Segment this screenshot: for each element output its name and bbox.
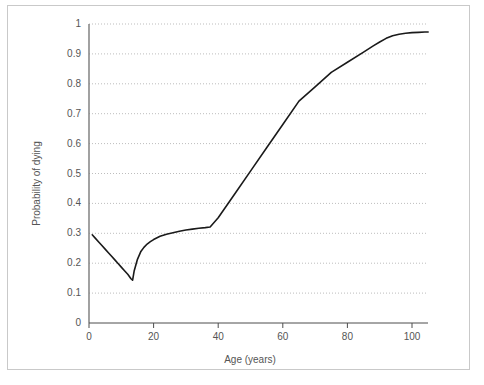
y-tick-label: 0.8: [55, 78, 81, 89]
x-tick-label: 40: [198, 331, 238, 342]
x-tick-label: 100: [392, 331, 432, 342]
y-tick-label: 0: [55, 317, 81, 328]
y-tick-label: 0.6: [55, 138, 81, 149]
series-line-probability-of-dying: [92, 32, 428, 280]
chart-frame: 00.10.20.30.40.50.60.70.80.91 0204060801…: [7, 5, 470, 370]
y-tick-label: 0.3: [55, 227, 81, 238]
x-tick-label: 20: [134, 331, 174, 342]
data-series-group: [92, 32, 428, 280]
y-tick-label: 0.9: [55, 48, 81, 59]
y-tick-label: 0.2: [55, 257, 81, 268]
y-tick-label: 0.1: [55, 287, 81, 298]
y-tick-label: 1: [55, 18, 81, 29]
y-tick-label: 0.7: [55, 108, 81, 119]
x-tick-label: 0: [69, 331, 109, 342]
y-tick-label: 0.5: [55, 168, 81, 179]
x-tick-label: 60: [263, 331, 303, 342]
tick-marks-group: [89, 323, 412, 328]
x-axis-title: Age (years): [8, 354, 484, 365]
y-tick-label: 0.4: [55, 197, 81, 208]
chart-plot-area: [8, 6, 469, 369]
x-tick-label: 80: [327, 331, 367, 342]
chart-figure: 00.10.20.30.40.50.60.70.80.91 0204060801…: [0, 0, 484, 385]
y-axis-title: Probability of dying: [31, 104, 42, 264]
